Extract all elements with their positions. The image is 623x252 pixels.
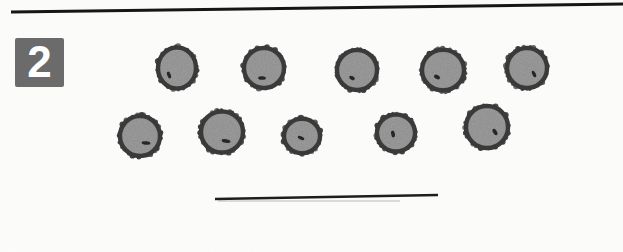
spore-wall-spine — [220, 108, 224, 112]
spore-wall-spine — [407, 147, 410, 150]
spore-wall-spine — [428, 51, 432, 55]
spore-texture — [379, 116, 413, 149]
spore-wall-spine — [118, 140, 122, 144]
spore-wall-spine — [279, 53, 282, 56]
spore-wall-spine — [140, 112, 146, 118]
spore-wall-spine — [166, 86, 170, 90]
spore-wall-spine — [419, 68, 423, 72]
spore-wall-spine — [270, 87, 273, 90]
spore-wall-spine — [427, 85, 431, 89]
spore-wall-spine — [400, 149, 406, 155]
spore-wall-spine — [504, 136, 508, 140]
spore-wall-spine — [375, 61, 379, 65]
spore-wall-spine — [440, 46, 446, 52]
spore-wall-spine — [158, 130, 163, 135]
spore-wall-spine — [216, 109, 220, 113]
spore-wall-spine — [371, 81, 376, 86]
spore-texture — [246, 50, 282, 86]
spore-wall-spine — [505, 114, 508, 117]
spore-wall-spine — [298, 115, 304, 121]
spore-wall-spine — [186, 48, 189, 51]
spore-wall-spine — [153, 148, 158, 153]
spore-texture — [468, 108, 506, 146]
spore-wall-spine — [537, 85, 540, 88]
spore-wall-spine — [306, 152, 309, 155]
spore-wall-spine — [377, 141, 380, 144]
spore-wall-spine — [191, 78, 196, 83]
spore-wall-spine — [341, 53, 344, 56]
spore-wall-spine — [421, 78, 425, 82]
spore-wall-spine — [182, 87, 186, 91]
spore-wall-spine — [265, 44, 270, 49]
spore-wall-spine — [458, 54, 462, 58]
spore-wall-spine — [520, 87, 524, 91]
spore-wall-spine — [454, 85, 458, 89]
spore-wall-spine — [148, 152, 153, 157]
spore-wall-spine — [391, 112, 394, 115]
spore-wall-spine — [305, 117, 307, 119]
spore-wall-spine — [195, 59, 197, 61]
spore-wall-spine — [272, 47, 278, 53]
spore-wall-spine — [153, 119, 158, 124]
spore-wall-spine — [264, 88, 267, 91]
spore-wall-spine — [546, 73, 548, 75]
spore-wall-spine — [284, 65, 287, 68]
spore-wall-spine — [525, 88, 528, 91]
spore-wall-spine — [381, 115, 387, 121]
spore-wall-spine — [117, 132, 120, 135]
spore-wall-spine — [201, 141, 205, 145]
spore-wall-spine — [544, 56, 548, 60]
spore-wall-spine — [503, 63, 509, 69]
spore-wall-spine — [340, 82, 343, 85]
spore-wall-spine — [237, 116, 242, 121]
spore-wall-spine — [136, 155, 141, 160]
spore-wall-spine — [192, 54, 197, 59]
spore-wall-spine — [159, 136, 163, 140]
spore-wall-spine — [257, 46, 260, 49]
spore-wall-spine — [130, 153, 136, 159]
spore-texture — [424, 52, 462, 89]
spore-wall-spine — [286, 146, 291, 151]
spore-wall-spine — [287, 119, 292, 124]
spore-wall-spine — [439, 89, 444, 94]
spore-wall-spine — [358, 47, 362, 51]
spore-wall-spine — [506, 74, 510, 78]
spore-wall-spine — [120, 145, 124, 149]
spore-wall-spine — [515, 46, 520, 51]
figure-panel: 2 — [0, 0, 623, 252]
spore-wall-spine — [156, 58, 160, 62]
spore-wall-spine — [294, 117, 297, 120]
spore-wall-spine — [487, 148, 490, 151]
spore-wall-spine — [198, 124, 203, 129]
spore-wall-spine — [336, 62, 339, 65]
spore-wall-spine — [493, 104, 497, 108]
spore-wall-spine — [220, 152, 223, 155]
spore-wall-spine — [462, 125, 467, 130]
spore-wall-spine — [284, 126, 286, 128]
spore-wall-spine — [283, 60, 286, 63]
spore-wall-spine — [127, 152, 130, 155]
spore-wall-spine — [425, 55, 428, 58]
spore-wall-spine — [155, 68, 158, 71]
spore-wall-spine — [463, 121, 467, 125]
spore-wall-spine — [506, 131, 511, 136]
spore-wall-spine — [436, 47, 441, 52]
spore-wall-spine — [241, 69, 245, 73]
spore-wall-spine — [202, 118, 205, 121]
spore-wall-spine — [507, 77, 512, 82]
spore-wall-spine — [404, 114, 408, 118]
spore-wall-spine — [347, 87, 352, 92]
spore-wall-spine — [299, 153, 303, 157]
spore-wall-spine — [344, 86, 347, 89]
spore-wall-spine — [531, 45, 537, 51]
spore-wall-spine — [511, 82, 515, 86]
spore-wall-spine — [240, 63, 245, 68]
spore-wall-spine — [485, 104, 487, 106]
spore-wall-spine — [546, 64, 549, 67]
spore-wall-spine — [413, 138, 416, 141]
spore-wall-spine — [281, 139, 287, 145]
spore-wall-spine — [373, 133, 378, 138]
spore-wall-spine — [476, 105, 479, 108]
spore-texture — [203, 113, 241, 150]
spore-wall-spine — [412, 121, 415, 124]
